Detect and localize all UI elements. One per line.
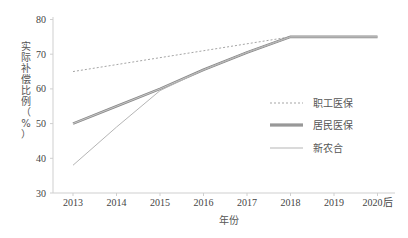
y-axis-title-char: 实 [21, 40, 31, 52]
x-tick-label: 2014 [107, 197, 127, 208]
y-tick-label: 30 [36, 188, 46, 199]
x-tick-label: 2018 [281, 197, 301, 208]
x-tick-label: 2015 [150, 197, 170, 208]
x-tick-label: 2013 [63, 197, 83, 208]
y-tick-label: 40 [36, 153, 46, 164]
y-tick-label: 70 [36, 49, 46, 60]
series-line-jumin [73, 37, 378, 124]
x-tick-label: 2016 [194, 197, 214, 208]
y-axis-title: 实际补偿比例（%） [21, 40, 31, 140]
y-axis-title-char: 际 [21, 52, 31, 63]
y-tick-label: 50 [36, 118, 46, 129]
y-tick-label: 60 [36, 83, 46, 94]
y-tick-label: 80 [36, 14, 46, 25]
series-line-jumin-inner [73, 37, 378, 124]
x-tick-label: 2020后 [363, 197, 393, 208]
legend: 职工医保 居民医保 新农合 [270, 97, 353, 154]
y-axis-title-char: 偿 [21, 73, 31, 85]
y-axis-title-char: （ [21, 107, 31, 118]
x-axis-title: 年份 [219, 214, 239, 226]
y-axis-title-char: 补 [21, 62, 31, 74]
x-tick-label: 2017 [237, 197, 257, 208]
line-chart: 304050607080 201320142015201620172018201… [0, 0, 408, 238]
legend-label-xinnonghe: 新农合 [313, 142, 343, 154]
x-tick-label: 2019 [324, 197, 344, 208]
y-axis-title-char: 比 [21, 85, 31, 96]
y-ticks: 304050607080 [36, 14, 53, 199]
x-ticks: 20132014201520162017201820192020后 [63, 193, 393, 208]
y-axis-title-char: % [21, 118, 31, 129]
y-axis-title-char: ） [21, 129, 31, 140]
legend-label-zhigong: 职工医保 [313, 97, 353, 109]
y-axis-title-char: 例 [21, 95, 31, 107]
legend-label-jumin: 居民医保 [313, 119, 353, 131]
series-line-zhigong [73, 37, 378, 72]
